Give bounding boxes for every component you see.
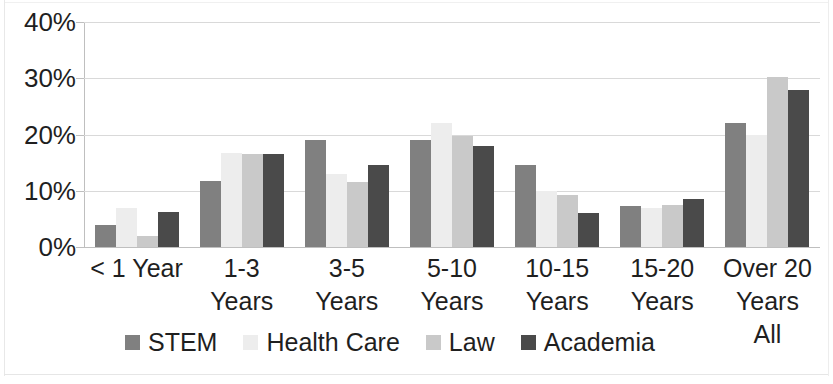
x-axis-category-label: 10-15Years: [505, 252, 610, 318]
x-axis-category-line: < 1 Year: [84, 252, 189, 285]
bar-chart: 0%10%20%30%40% < 1 Year1-3Years3-5Years5…: [0, 0, 833, 384]
bar: [473, 146, 494, 247]
x-axis-category-line: Years: [715, 285, 820, 318]
bar: [662, 205, 683, 247]
x-axis-category-line: Years: [294, 285, 399, 318]
legend-label: Academia: [544, 330, 655, 355]
legend-swatch-icon: [125, 335, 140, 350]
bar: [410, 140, 431, 247]
x-axis-category-line: Years: [610, 285, 715, 318]
y-axis-tick: [76, 135, 84, 136]
bar-group: [399, 22, 504, 247]
x-axis-category-line: 10-15: [505, 252, 610, 285]
y-axis-tick-label: 40%: [6, 9, 76, 35]
bar: [305, 140, 326, 247]
legend-label: Health Care: [266, 330, 399, 355]
legend-item[interactable]: Academia: [521, 330, 655, 355]
frame-edge-right: [828, 0, 829, 376]
bar: [515, 165, 536, 247]
bar: [767, 77, 788, 247]
y-axis-tick: [76, 247, 84, 248]
x-axis-category-line: All: [715, 318, 820, 351]
x-axis-category-label: 15-20Years: [610, 252, 715, 318]
frame-edge-bottom: [4, 374, 828, 375]
legend-item[interactable]: STEM: [125, 330, 217, 355]
y-axis-tick-label: 30%: [6, 65, 76, 91]
bar: [137, 236, 158, 247]
legend-item[interactable]: Law: [426, 330, 495, 355]
bar: [95, 225, 116, 248]
legend-item[interactable]: Health Care: [243, 330, 399, 355]
bar: [620, 206, 641, 247]
y-axis-tick: [76, 22, 84, 23]
bar: [326, 174, 347, 247]
bar: [578, 213, 599, 247]
bar: [242, 154, 263, 247]
gridline-0: [84, 247, 820, 248]
bar: [431, 123, 452, 247]
plot-area: [84, 22, 820, 247]
bar: [725, 123, 746, 247]
x-axis-category-line: 15-20: [610, 252, 715, 285]
x-axis-category-line: 5-10: [399, 252, 504, 285]
legend-swatch-icon: [243, 335, 258, 350]
x-axis-category-line: Years: [505, 285, 610, 318]
bar-group: [505, 22, 610, 247]
x-axis-category-label: 3-5Years: [294, 252, 399, 318]
bar: [200, 181, 221, 247]
x-axis-category-line: 1-3: [189, 252, 294, 285]
bar: [452, 136, 473, 247]
y-axis-tick: [76, 78, 84, 79]
bar: [788, 90, 809, 248]
bar: [368, 165, 389, 247]
chart-legend: STEMHealth CareLawAcademia: [125, 330, 655, 355]
y-axis-tick-label: 10%: [6, 178, 76, 204]
bar-group: [84, 22, 189, 247]
bar: [221, 153, 242, 247]
y-axis-labels: 0%10%20%30%40%: [0, 0, 76, 384]
bar: [746, 135, 767, 248]
x-axis-category-line: Years: [189, 285, 294, 318]
bar-group: [189, 22, 294, 247]
x-axis-category-line: Over 20: [715, 252, 820, 285]
y-axis-tick-label: 20%: [6, 122, 76, 148]
legend-swatch-icon: [426, 335, 441, 350]
x-axis-category-label: 1-3Years: [189, 252, 294, 318]
bar: [347, 182, 368, 247]
x-axis-category-line: Years: [399, 285, 504, 318]
x-axis-category-label: < 1 Year: [84, 252, 189, 285]
x-axis-category-label: Over 20YearsAll: [715, 252, 820, 351]
legend-swatch-icon: [521, 335, 536, 350]
bar: [536, 191, 557, 247]
bar-group: [610, 22, 715, 247]
bar: [158, 212, 179, 247]
bar-group: [715, 22, 820, 247]
bar: [683, 199, 704, 247]
y-axis-tick-label: 0%: [6, 234, 76, 260]
frame-edge-top: [4, 2, 828, 3]
bar: [263, 154, 284, 247]
bar-group: [294, 22, 399, 247]
x-axis-category-label: 5-10Years: [399, 252, 504, 318]
bar: [641, 208, 662, 247]
x-axis-category-line: 3-5: [294, 252, 399, 285]
bar: [116, 208, 137, 247]
y-axis-tick: [76, 191, 84, 192]
bar: [557, 195, 578, 247]
legend-label: STEM: [148, 330, 217, 355]
legend-label: Law: [449, 330, 495, 355]
